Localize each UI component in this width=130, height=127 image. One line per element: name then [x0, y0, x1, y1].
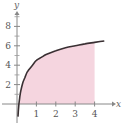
shaded-area	[19, 42, 95, 104]
x-tick-label: 2	[53, 109, 59, 119]
y-tick-label: 8	[5, 21, 11, 31]
x-tick-label: 4	[92, 109, 98, 119]
chart: 12342468 x y	[0, 0, 130, 127]
y-axis-arrow-icon	[15, 11, 20, 15]
x-axis-label: x	[116, 99, 121, 109]
y-axis-label: y	[13, 0, 20, 10]
x-tick-label: 3	[72, 109, 78, 119]
x-tick-label: 1	[34, 109, 40, 119]
y-tick-label: 6	[5, 41, 11, 51]
y-tick-label: 4	[5, 60, 11, 70]
y-tick-label: 2	[5, 80, 11, 90]
